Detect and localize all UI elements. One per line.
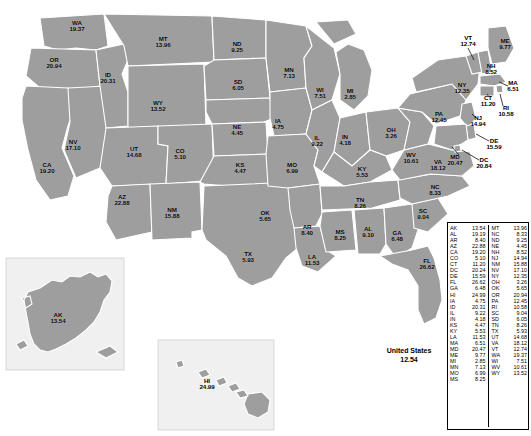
state-label-mi: MI2.85 <box>344 88 356 101</box>
state-shape-md <box>434 124 468 150</box>
state-value: 18.12 <box>431 165 446 171</box>
state-value: 9.25 <box>231 47 243 53</box>
state-shape-ri <box>496 85 503 93</box>
state-label-nm: NM15.88 <box>165 207 180 220</box>
state-label-nc: NC8.33 <box>429 184 441 197</box>
state-value: 20.47 <box>448 160 463 166</box>
state-label-ut: UT14.68 <box>127 146 142 159</box>
state-label-wv: WV10.61 <box>404 152 419 165</box>
state-label-md: MD20.47 <box>448 154 463 167</box>
state-value: 2.85 <box>344 94 356 100</box>
legend-table: AK13.54AL19.19AR8.40AZ22.88CA19.20CO5.10… <box>447 222 529 430</box>
state-label-in: IN4.18 <box>339 134 351 147</box>
state-value: 4.75 <box>272 124 284 130</box>
state-label-ga: GA6.48 <box>391 230 403 243</box>
national-total-value: 12.54 <box>400 356 418 363</box>
state-value: 9.10 <box>362 232 374 238</box>
state-value: 5.93 <box>242 257 254 263</box>
legend-state-abbr: MS <box>450 376 458 382</box>
state-value: 9.77 <box>499 44 511 50</box>
state-value: 11.53 <box>305 260 320 266</box>
state-label-wa: WA19.37 <box>70 20 85 33</box>
national-total: United States 12.54 <box>374 346 444 364</box>
map-figure: AK13.54AL9.10AR8.40AZ22.88CA19.20CO5.10C… <box>0 0 531 436</box>
state-label-tn: TN8.26 <box>354 197 366 210</box>
state-label-id: ID20.31 <box>101 72 116 85</box>
state-value: 24.99 <box>200 384 215 390</box>
state-label-mn: MN7.13 <box>283 67 295 80</box>
legend-row: MS8.25 <box>450 376 486 382</box>
state-value: 10.58 <box>499 111 514 117</box>
state-value: 12.74 <box>461 41 476 47</box>
state-shape-or <box>26 48 100 90</box>
state-value: 9.04 <box>417 214 429 220</box>
state-label-sc: SC9.04 <box>417 208 429 221</box>
state-shape-az <box>106 184 152 240</box>
state-label-wi: WI7.51 <box>314 87 326 100</box>
state-value: 5.53 <box>356 172 368 178</box>
state-label-ma: MA6.51 <box>507 80 519 93</box>
state-label-de: DE15.59 <box>487 138 502 151</box>
state-value: 22.88 <box>115 200 130 206</box>
state-label-ak: AK13.54 <box>51 312 66 325</box>
state-label-ne: NE4.45 <box>231 124 243 137</box>
state-label-ky: KY5.53 <box>356 166 368 179</box>
state-value: 19.20 <box>40 168 55 174</box>
state-label-me: ME9.77 <box>499 38 511 51</box>
state-label-tx: TX5.93 <box>242 251 254 264</box>
state-value: 20.84 <box>477 163 492 169</box>
state-label-ny: NY12.35 <box>455 82 470 95</box>
state-label-wy: WY13.52 <box>151 100 166 113</box>
state-value: 14.94 <box>471 121 486 127</box>
state-label-ri: RI10.58 <box>499 105 514 118</box>
state-value: 8.33 <box>429 190 441 196</box>
state-label-az: AZ22.88 <box>115 194 130 207</box>
state-value: 7.13 <box>283 73 295 79</box>
state-value: 20.94 <box>47 63 62 69</box>
legend-state-value: 8.25 <box>475 376 486 382</box>
state-label-nd: ND9.25 <box>231 41 243 54</box>
state-value: 8.52 <box>485 69 497 75</box>
state-label-fl: FL26.62 <box>420 258 435 271</box>
state-value: 13.54 <box>51 318 66 324</box>
state-label-la: LA11.53 <box>305 254 320 267</box>
state-value: 8.40 <box>301 230 313 236</box>
state-value: 26.62 <box>420 264 435 270</box>
state-value: 13.52 <box>151 106 166 112</box>
legend-state-abbr: WY <box>492 370 501 376</box>
state-value: 11.20 <box>481 101 496 107</box>
state-value: 15.59 <box>487 144 502 150</box>
state-value: 10.61 <box>404 158 419 164</box>
state-label-ca: CA19.20 <box>40 162 55 175</box>
state-label-mt: MT13.96 <box>156 36 171 49</box>
state-value: 4.47 <box>234 168 246 174</box>
state-value: 8.26 <box>354 203 366 209</box>
state-label-ar: AR8.40 <box>301 224 313 237</box>
state-label-ok: OK5.65 <box>259 210 271 223</box>
state-shape-ne <box>206 98 274 124</box>
state-shape-wy <box>128 64 206 128</box>
state-value: 6.51 <box>507 86 519 92</box>
state-value: 19.37 <box>70 26 85 32</box>
state-label-ks: KS4.47 <box>234 162 246 175</box>
state-label-al: AL9.10 <box>362 226 374 239</box>
state-shape-ar <box>288 184 322 228</box>
state-value: 17.10 <box>66 145 81 151</box>
state-value: 12.35 <box>455 88 470 94</box>
state-shape-ma <box>480 74 506 86</box>
state-label-co: CO5.10 <box>174 148 186 161</box>
national-total-label: United States <box>387 347 432 354</box>
state-label-pa: PA12.45 <box>432 111 447 124</box>
state-value: 15.88 <box>165 213 180 219</box>
state-label-ia: IA4.75 <box>272 118 284 131</box>
state-label-nh: NH8.52 <box>485 63 497 76</box>
state-label-oh: OH3.26 <box>385 127 397 140</box>
state-label-dc: DC20.84 <box>477 157 492 170</box>
state-value: 13.96 <box>156 42 171 48</box>
state-value: 12.45 <box>432 117 447 123</box>
state-label-nj: NJ14.94 <box>471 115 486 128</box>
state-value: 6.48 <box>391 236 403 242</box>
state-label-mo: MO6.99 <box>286 162 298 175</box>
state-value: 4.45 <box>231 130 243 136</box>
state-value: 3.26 <box>385 133 397 139</box>
